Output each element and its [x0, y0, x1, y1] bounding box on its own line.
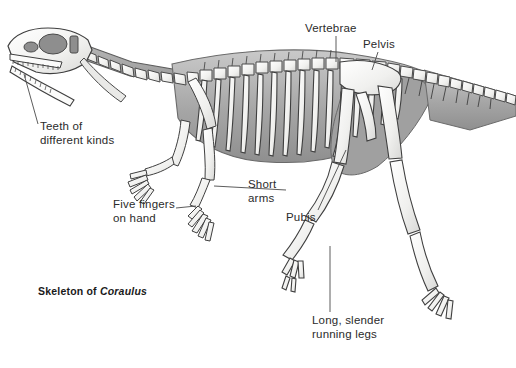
- lateral-temporal-fenestra: [70, 36, 78, 53]
- leader-line-five-fingers: [176, 206, 196, 208]
- caption-genus-name: Coraulus: [100, 285, 147, 297]
- label-pubis: Pubis: [286, 211, 316, 225]
- label-long-slender-running-legs: Long, slender running legs: [312, 314, 384, 341]
- label-pelvis: Pelvis: [363, 38, 395, 52]
- label-teeth-of-different-kinds: Teeth of different kinds: [40, 120, 114, 147]
- orbit: [39, 34, 67, 54]
- label-short-arms: Short arms: [248, 178, 277, 205]
- antorbital-fenestra: [24, 42, 38, 52]
- near-foot: [422, 288, 453, 319]
- figure-caption: Skeleton of Coraulus: [38, 285, 147, 297]
- near-hand-five-fingers: [188, 206, 214, 241]
- label-vertebrae: Vertebrae: [305, 22, 357, 36]
- label-five-fingers-on-hand: Five fingers on hand: [113, 198, 175, 225]
- caption-prefix: Skeleton of: [38, 285, 100, 297]
- figure-container: Vertebrae Pelvis Teeth of different kind…: [0, 0, 516, 368]
- far-foot: [282, 258, 304, 292]
